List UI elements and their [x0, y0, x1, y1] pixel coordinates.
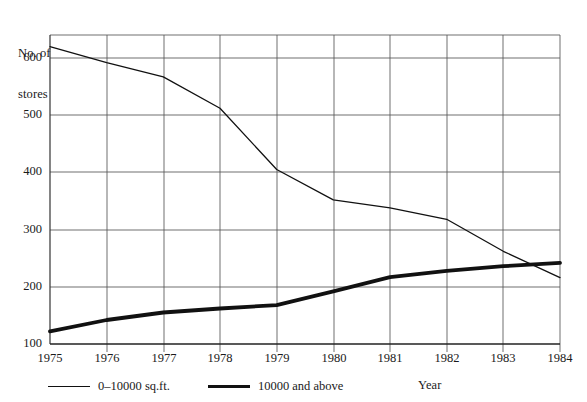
x-axis-title: Year	[418, 379, 441, 393]
line-chart-figure: No. of stores 600 500 400 300 200 100	[0, 0, 587, 402]
x-tick-label-1982: 1982	[423, 352, 471, 365]
series-line-10000-and-above	[50, 263, 560, 332]
legend-item-thin: 0–10000 sq.ft.	[48, 379, 208, 394]
x-tick-label-1976: 1976	[83, 352, 131, 365]
thin-line-swatch-icon	[48, 386, 90, 387]
legend-label-0-10000-sqft: 0–10000 sq.ft.	[98, 379, 170, 394]
legend-label-10000-and-above: 10000 and above	[258, 379, 343, 394]
x-tick-label-1975: 1975	[26, 352, 74, 365]
x-tick-label-1984: 1984	[536, 352, 584, 365]
chart-legend: 0–10000 sq.ft. 10000 and above	[48, 376, 343, 396]
legend-item-thick: 10000 and above	[208, 379, 343, 394]
x-tick-label-1978: 1978	[196, 352, 244, 365]
grid-lines	[50, 35, 560, 352]
series-line-0-10000-sqft	[50, 47, 560, 278]
x-tick-label-1981: 1981	[366, 352, 414, 365]
x-tick-label-1983: 1983	[479, 352, 527, 365]
x-tick-label-1979: 1979	[253, 352, 301, 365]
x-tick-label-1980: 1980	[310, 352, 358, 365]
x-tick-label-1977: 1977	[140, 352, 188, 365]
thick-line-swatch-icon	[208, 385, 250, 388]
plot-area	[0, 0, 587, 402]
